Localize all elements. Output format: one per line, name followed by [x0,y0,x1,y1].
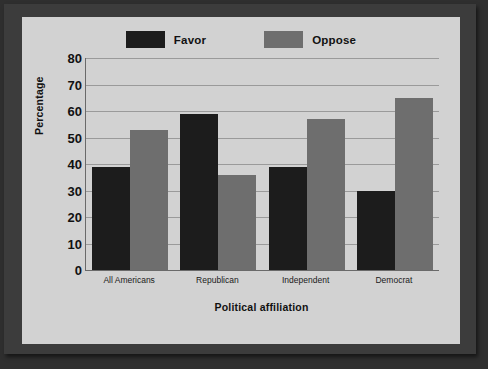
image-frame: Favor Oppose Percentage 0102030405060708… [4,4,476,354]
bar-oppose [218,175,256,270]
y-tick-label: 40 [68,158,82,171]
bar-group [263,58,351,270]
bar-oppose [307,119,345,270]
y-tick-label: 80 [68,52,82,65]
bar-oppose [130,130,168,270]
x-tick-label: All Americans [85,275,173,285]
y-axis-title: Percentage [33,76,45,135]
bar-favor [92,167,130,270]
y-tick-label: 50 [68,131,82,144]
y-tick-label: 10 [68,237,82,250]
y-tick-label: 30 [68,184,82,197]
x-axis-tick-labels: All AmericansRepublicanIndependentDemocr… [85,275,438,285]
chart-screenshot: Favor Oppose Percentage 0102030405060708… [0,0,488,369]
bar-favor [180,114,218,270]
bar-groups [86,58,439,270]
bar-group [174,58,262,270]
y-tick-label: 60 [68,105,82,118]
bar-oppose [395,98,433,270]
bar-group [86,58,174,270]
y-tick-label: 0 [75,264,82,277]
y-tick-label: 70 [68,78,82,91]
y-tick-label: 20 [68,211,82,224]
x-axis-title: Political affiliation [85,301,438,313]
plot-wrapper: Percentage 01020304050607080 All America… [22,17,460,344]
bar-favor [357,191,395,271]
plot-area [85,58,439,271]
x-tick-label: Republican [173,275,261,285]
x-tick-label: Democrat [350,275,438,285]
y-axis-tick-labels: 01020304050607080 [46,58,82,270]
chart-panel: Favor Oppose Percentage 0102030405060708… [22,17,460,344]
bar-favor [269,167,307,270]
bar-group [351,58,439,270]
x-tick-label: Independent [262,275,350,285]
